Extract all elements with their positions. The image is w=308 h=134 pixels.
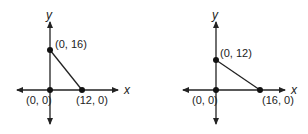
point-right <box>79 87 85 93</box>
point-label-right: (16, 0) <box>262 94 294 106</box>
point-label-top: (0, 16) <box>55 38 87 50</box>
graph-2: y x (0, 12) (0, 0) (16, 0) <box>183 8 298 124</box>
diagram-canvas: y x (0, 16) (0, 0) (12, 0) y x (0, 12) (… <box>0 0 308 134</box>
point-label-top: (0, 12) <box>220 47 252 59</box>
point-top <box>213 57 219 63</box>
point-label-origin: (0, 0) <box>26 94 52 106</box>
graph-1: y x (0, 16) (0, 0) (12, 0) <box>17 8 131 124</box>
y-axis-label: y <box>211 8 219 22</box>
y-axis-label: y <box>45 8 53 22</box>
point-right <box>257 87 263 93</box>
point-label-origin: (0, 0) <box>192 94 218 106</box>
segment <box>50 50 82 90</box>
point-origin <box>213 87 219 93</box>
point-origin <box>47 87 53 93</box>
point-top <box>47 47 53 53</box>
x-axis-label: x <box>123 83 131 97</box>
point-label-right: (12, 0) <box>76 94 108 106</box>
segment <box>216 60 260 90</box>
